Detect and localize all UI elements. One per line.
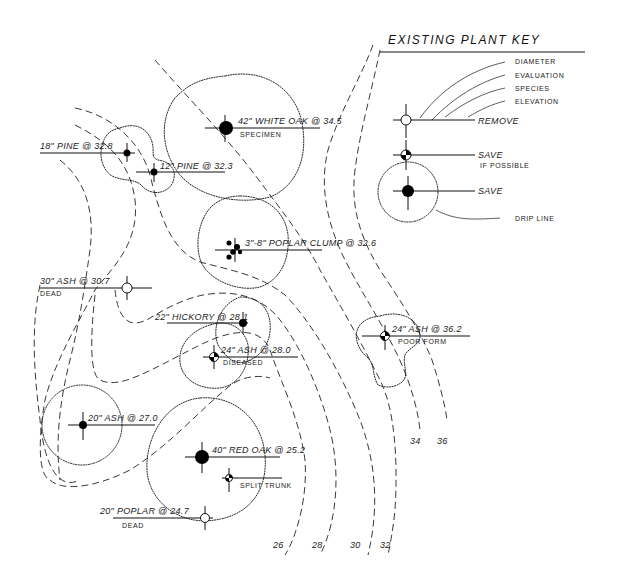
white-oak-canopy[interactable] [164, 74, 303, 200]
contour-label: 28 [311, 540, 323, 550]
tree-label: 30" ASH @ 30.7 [40, 276, 110, 286]
legend-save-if-possible-sublabel: IF POSSIBLE [480, 162, 529, 169]
legend-elevation: ELEVATION [515, 98, 559, 105]
tree-label: 22" HICKORY @ 28.1 [154, 312, 248, 322]
tree-pine-18[interactable]: 18" PINE @ 32.8 [40, 141, 135, 162]
tree-label: 40" RED OAK @ 25.2 [212, 445, 305, 455]
contour-line [58, 160, 91, 480]
tree-note: POOR FORM [398, 338, 447, 345]
pine-cluster-canopy[interactable] [101, 126, 174, 193]
contour-label: 34 [410, 436, 421, 446]
contour-label: 36 [437, 436, 448, 446]
tree-red-oak[interactable]: 40" RED OAK @ 25.2 [185, 442, 305, 473]
legend-save-label: SAVE [478, 186, 503, 196]
contour-line [354, 50, 447, 420]
legend-title: EXISTING PLANT KEY [388, 33, 540, 47]
contour-line [34, 285, 80, 483]
save-tree-icon [219, 121, 233, 135]
tree-pine-12[interactable]: 12" PINE @ 32.3 [136, 161, 233, 182]
tree-label: 12" PINE @ 32.3 [160, 161, 233, 171]
tree-label: 18" PINE @ 32.8 [40, 141, 113, 151]
legend-diameter: DIAMETER [515, 58, 556, 65]
save-tree-icon [195, 450, 209, 464]
tree-note: SPECIMEN [240, 131, 281, 138]
legend-remove-label: REMOVE [478, 116, 520, 126]
tree-note: DEAD [122, 522, 144, 529]
tree-label: 24" ASH @ 28.0 [220, 345, 291, 355]
legend-drip-line-label: DRIP LINE [515, 215, 555, 222]
tree-label: 20" POPLAR @ 24.7 [99, 506, 190, 516]
contour-line [40, 125, 135, 480]
legend-species: SPECIES [515, 85, 550, 92]
save-tree-icon [124, 150, 131, 157]
remove-tree-icon [122, 283, 132, 293]
tree-poplar-20[interactable]: 20" POPLAR @ 24.7 DEAD [99, 506, 213, 530]
tree-ash-20[interactable]: 20" ASH @ 27.0 [68, 412, 158, 440]
tree-hickory[interactable]: 22" HICKORY @ 28.1 [154, 312, 248, 334]
tree-ash-poor-form[interactable]: 24" ASH @ 36.2 POOR FORM [362, 324, 470, 350]
tree-note: DISEASED [223, 359, 263, 366]
tree-label: SPLIT TRUNK [240, 482, 292, 489]
contour-label: 30 [350, 540, 361, 550]
legend-save-if-possible-label: SAVE [478, 150, 503, 160]
remove-tree-icon [201, 514, 210, 523]
contour-line [75, 108, 375, 555]
tree-split-trunk[interactable]: SPLIT TRUNK [222, 468, 292, 492]
existing-plant-plan: 42" WHITE OAK @ 34.5 SPECIMEN 18" PINE @… [0, 0, 618, 582]
tree-label: 20" ASH @ 27.0 [87, 413, 158, 423]
tree-label: 3"-8" POPLAR CLUMP @ 32.6 [245, 238, 376, 248]
tree-white-oak[interactable]: 42" WHITE OAK @ 34.5 SPECIMEN [205, 115, 343, 142]
contour-label: 26 [272, 540, 284, 550]
contour-label: 32 [380, 540, 391, 550]
tree-note: DEAD [40, 290, 62, 297]
tree-label: 42" WHITE OAK @ 34.5 [238, 116, 343, 126]
save-tree-icon [151, 169, 158, 176]
tree-ash-30[interactable]: 30" ASH @ 30.7 DEAD [40, 276, 152, 300]
plant-key-legend: EXISTING PLANT KEY DIAMETER EVALUATION S… [378, 33, 585, 222]
remove-symbol-icon [401, 115, 411, 125]
save-symbol-icon [402, 185, 414, 197]
tree-poplar-clump[interactable]: 3"-8" POPLAR CLUMP @ 32.6 [215, 238, 376, 262]
tree-label: 24" ASH @ 36.2 [391, 324, 462, 334]
save-tree-icon [79, 421, 87, 429]
legend-evaluation: EVALUATION [515, 72, 564, 79]
tree-ash-diseased[interactable]: 24" ASH @ 28.0 DISEASED [203, 345, 298, 369]
